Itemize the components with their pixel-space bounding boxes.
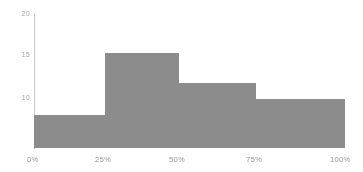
x-tick-label-75: 75% bbox=[246, 155, 262, 164]
x-tick-label-0: 0% bbox=[27, 155, 38, 164]
bar-bin-25-50 bbox=[105, 53, 179, 148]
plot-area: 20 15 10 0% 25% 50% 75% 100% bbox=[0, 0, 363, 172]
x-tick-label-25: 25% bbox=[95, 155, 111, 164]
bar-bin-50-75 bbox=[179, 83, 256, 148]
bars-layer bbox=[0, 0, 363, 172]
bar-bin-75-100 bbox=[256, 99, 345, 148]
x-tick-label-50: 50% bbox=[169, 155, 185, 164]
bar-bin-0-25 bbox=[34, 115, 105, 148]
x-tick-label-100: 100% bbox=[330, 155, 350, 164]
bar-chart: 20 15 10 0% 25% 50% 75% 100% bbox=[0, 0, 363, 172]
